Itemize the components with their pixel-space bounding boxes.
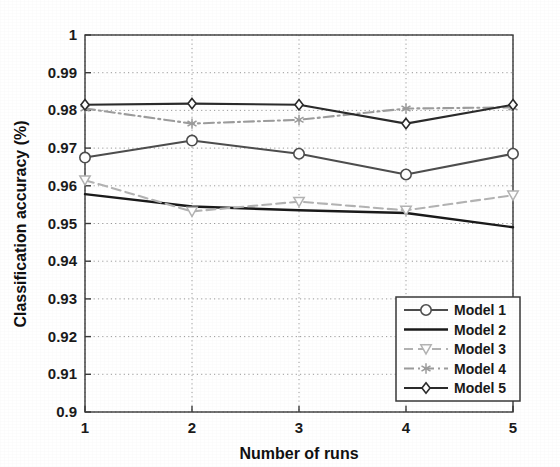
x-tick-label: 3 — [295, 419, 303, 436]
x-tick-label: 4 — [402, 419, 411, 436]
data-point-marker-circle — [80, 152, 90, 162]
data-point-marker-circle — [421, 305, 431, 315]
data-point-marker-circle — [508, 149, 518, 159]
data-point-marker-star — [294, 115, 303, 125]
x-tick-label: 2 — [188, 419, 196, 436]
legend-label: Model 3 — [454, 341, 506, 357]
legend-label: Model 1 — [454, 302, 506, 318]
data-point-marker-circle — [401, 169, 411, 179]
y-tick-label: 0.97 — [48, 139, 77, 156]
data-point-marker-diamond — [188, 98, 196, 108]
y-tick-label: 0.93 — [48, 290, 77, 307]
y-tick-label: 1 — [69, 26, 77, 43]
figure-canvas: 0.90.910.920.930.940.950.960.970.980.991… — [0, 0, 560, 467]
legend-label: Model 2 — [454, 322, 506, 338]
data-point-marker-diamond — [295, 100, 303, 110]
x-tick-label: 1 — [81, 419, 89, 436]
x-tick-label: 5 — [509, 419, 517, 436]
data-point-marker-circle — [187, 135, 197, 145]
y-tick-label: 0.9 — [56, 403, 77, 420]
y-tick-label: 0.98 — [48, 101, 77, 118]
y-axis-title: Classification accuracy (%) — [12, 120, 29, 327]
data-point-marker-triangle-down — [508, 191, 518, 200]
y-tick-label: 0.99 — [48, 64, 77, 81]
legend-label: Model 4 — [454, 361, 506, 377]
legend[interactable]: Model 1Model 2Model 3Model 4Model 5 — [396, 297, 520, 401]
y-tick-label: 0.91 — [48, 365, 77, 382]
data-point-marker-diamond — [402, 118, 410, 128]
y-tick-label: 0.96 — [48, 177, 77, 194]
data-series-layer — [80, 98, 518, 227]
data-point-marker-circle — [294, 149, 304, 159]
line-chart: 0.90.910.920.930.940.950.960.970.980.991… — [0, 0, 560, 467]
y-tick-label: 0.94 — [48, 252, 78, 269]
x-axis-title: Number of runs — [239, 445, 358, 462]
legend-label: Model 5 — [454, 380, 506, 396]
y-tick-label: 0.92 — [48, 328, 77, 345]
y-tick-label: 0.95 — [48, 215, 77, 232]
